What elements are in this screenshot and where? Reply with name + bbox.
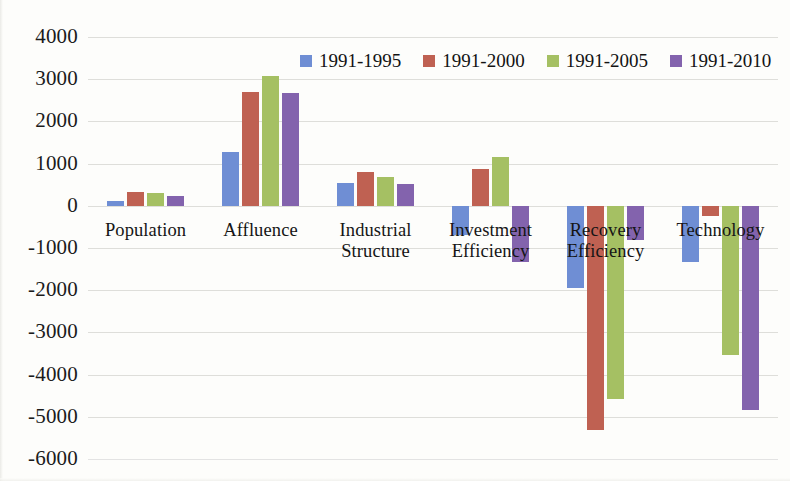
bar: [127, 192, 144, 206]
legend-item: 1991-2005: [547, 50, 648, 72]
bar-group: [88, 37, 203, 459]
y-axis-tick-label: 0: [0, 195, 78, 216]
bar: [377, 177, 394, 206]
y-axis-tick-label: 3000: [0, 68, 78, 89]
legend-label: 1991-2010: [689, 50, 771, 72]
y-axis-tick-label: -1000: [0, 237, 78, 258]
y-axis-tick-label: -6000: [0, 448, 78, 469]
y-axis-tick-label: 4000: [0, 26, 78, 47]
legend-label: 1991-1995: [319, 50, 401, 72]
legend-swatch-icon: [670, 55, 682, 67]
bar-group: [663, 37, 778, 459]
bar: [107, 201, 124, 206]
legend-item: 1991-2000: [423, 50, 524, 72]
y-axis-tick-label: 1000: [0, 153, 78, 174]
bar: [262, 76, 279, 206]
legend-item: 1991-1995: [300, 50, 401, 72]
bar: [282, 93, 299, 206]
legend-label: 1991-2000: [442, 50, 524, 72]
legend-swatch-icon: [547, 55, 559, 67]
bar: [492, 157, 509, 206]
y-axis-tick-label: -3000: [0, 321, 78, 342]
y-axis-tick-label: -4000: [0, 364, 78, 385]
bar-group: [203, 37, 318, 459]
bar: [222, 152, 239, 206]
bar: [242, 92, 259, 206]
legend-item: 1991-2010: [670, 50, 771, 72]
legend-label: 1991-2005: [566, 50, 648, 72]
bar: [397, 184, 414, 206]
legend-swatch-icon: [300, 55, 312, 67]
bar: [167, 196, 184, 206]
bar: [357, 172, 374, 206]
y-axis-tick-label: -2000: [0, 279, 78, 300]
y-axis-tick-label: -5000: [0, 406, 78, 427]
bar: [472, 169, 489, 206]
bar: [337, 183, 354, 206]
chart-legend: 1991-19951991-20001991-20051991-2010: [300, 50, 771, 72]
category-label: Technology: [651, 220, 790, 241]
legend-swatch-icon: [423, 55, 435, 67]
bar: [147, 193, 164, 206]
bar-chart: 40003000200010000-1000-2000-3000-4000-50…: [0, 0, 790, 481]
y-axis-tick-label: 2000: [0, 110, 78, 131]
gridline: [88, 459, 778, 460]
bar: [702, 206, 719, 217]
